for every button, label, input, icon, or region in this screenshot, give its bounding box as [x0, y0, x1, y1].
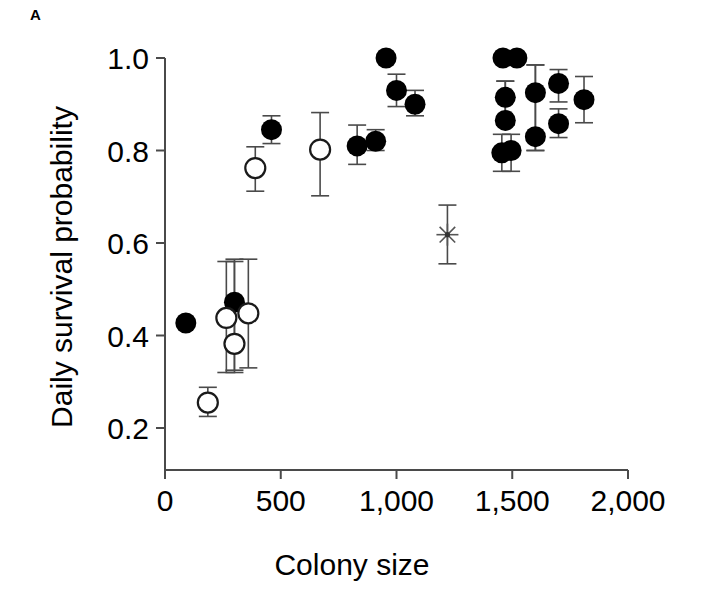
error-bar-layer: [199, 65, 593, 417]
y-tick-label: 0.2: [107, 412, 149, 445]
data-point-filled: [574, 89, 595, 110]
data-point-filled: [347, 135, 368, 156]
data-point-open: [238, 303, 258, 323]
scatter-plot-canvas: 0.20.40.60.81.005001,0001,5002,000: [0, 0, 704, 610]
data-point-filled: [365, 131, 386, 152]
x-tick-label: 1,000: [359, 484, 434, 517]
data-point-filled: [175, 313, 196, 334]
figure-bottom-margin: [0, 596, 704, 610]
x-tick-label: 2,000: [590, 484, 665, 517]
x-tick-label: 0: [157, 484, 174, 517]
data-point-filled: [495, 87, 516, 108]
data-point-filled: [386, 80, 407, 101]
data-marker-layer: [175, 48, 594, 413]
data-point-open: [310, 140, 330, 160]
y-tick-label: 0.6: [107, 227, 149, 260]
data-point-filled: [548, 73, 569, 94]
data-point-filled: [405, 94, 426, 115]
data-point-filled: [548, 113, 569, 134]
data-point-open: [245, 158, 265, 178]
data-point-filled: [261, 119, 282, 140]
data-point-filled: [376, 48, 397, 69]
data-point-filled: [501, 140, 522, 161]
y-tick-label: 0.8: [107, 135, 149, 168]
data-point-asterisk-core: [445, 232, 450, 237]
tick-label-layer: 0.20.40.60.81.005001,0001,5002,000: [107, 42, 665, 517]
data-point-filled: [525, 82, 546, 103]
data-point-filled: [495, 110, 516, 131]
x-tick-label: 1,500: [475, 484, 550, 517]
data-point-filled: [506, 48, 527, 69]
figure-panel-a: A Daily survival probability Colony size…: [0, 0, 704, 610]
data-point-open: [198, 393, 218, 413]
data-point-open: [224, 334, 244, 354]
data-point-open: [216, 308, 236, 328]
y-tick-label: 0.4: [107, 320, 149, 353]
x-tick-label: 500: [256, 484, 306, 517]
data-point-filled: [525, 126, 546, 147]
y-tick-label: 1.0: [107, 42, 149, 75]
